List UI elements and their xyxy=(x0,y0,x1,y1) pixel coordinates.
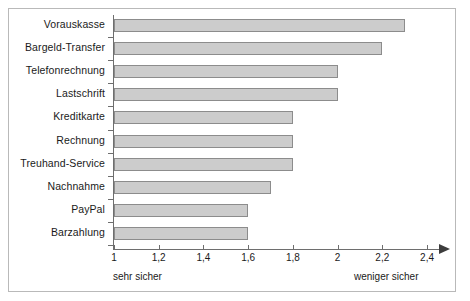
bar-category-label: Nachnahme xyxy=(0,180,105,192)
bar-category-label: Bargeld-Transfer xyxy=(0,41,105,53)
bar xyxy=(114,111,293,124)
x-axis-tick xyxy=(338,245,339,250)
bar-row: Vorauskasse xyxy=(9,15,457,38)
x-axis-tick-label: 2 xyxy=(335,252,341,263)
bar xyxy=(114,42,382,55)
x-axis-tick-label: 2,2 xyxy=(375,252,389,263)
bar-category-label: Barzahlung xyxy=(0,226,105,238)
bar xyxy=(114,88,338,101)
bar xyxy=(114,65,338,78)
bar-category-label: Treuhand-Service xyxy=(0,157,105,169)
x-axis-tick xyxy=(114,245,115,250)
bar xyxy=(114,204,248,217)
y-axis-tick xyxy=(108,153,113,154)
bar xyxy=(114,181,271,194)
x-axis-tick xyxy=(293,245,294,250)
y-axis-tick xyxy=(108,130,113,131)
x-axis-tick xyxy=(382,245,383,250)
bar-row: Lastschrift xyxy=(9,84,457,107)
x-axis-tick xyxy=(203,245,204,250)
x-axis-tick-label: 1,6 xyxy=(241,252,255,263)
y-axis-tick xyxy=(108,37,113,38)
y-axis-tick xyxy=(108,222,113,223)
y-axis-tick xyxy=(108,60,113,61)
x-axis-tick-label: 1,2 xyxy=(152,252,166,263)
bar xyxy=(114,135,293,148)
bar-row: Treuhand-Service xyxy=(9,154,457,177)
x-axis-line xyxy=(113,249,440,250)
axis-annotation-low: sehr sicher xyxy=(113,271,162,282)
y-axis-tick xyxy=(108,245,113,246)
x-axis-tick xyxy=(427,245,428,250)
x-axis-tick-label: 1,4 xyxy=(196,252,210,263)
x-axis-tick xyxy=(159,245,160,250)
x-axis-tick-label: 1,8 xyxy=(286,252,300,263)
bar-category-label: Rechnung xyxy=(0,134,105,146)
y-axis-tick xyxy=(108,83,113,84)
x-axis-tick-label: 1 xyxy=(111,252,117,263)
y-axis-tick xyxy=(108,199,113,200)
y-axis-tick xyxy=(108,106,113,107)
bar xyxy=(114,227,248,240)
chart-frame: VorauskasseBargeld-TransferTelefonrechnu… xyxy=(8,8,456,292)
bar-row: PayPal xyxy=(9,200,457,223)
bar-row: Telefonrechnung xyxy=(9,61,457,84)
bar-row: Kreditkarte xyxy=(9,107,457,130)
bar-category-label: Telefonrechnung xyxy=(0,64,105,76)
x-axis-tick xyxy=(248,245,249,250)
bar-category-label: Vorauskasse xyxy=(0,18,105,30)
bar-row: Bargeld-Transfer xyxy=(9,38,457,61)
bar-row: Barzahlung xyxy=(9,223,457,246)
bar xyxy=(114,158,293,171)
bar-row: Nachnahme xyxy=(9,177,457,200)
bar-row: Rechnung xyxy=(9,131,457,154)
plot-area: VorauskasseBargeld-TransferTelefonrechnu… xyxy=(9,9,457,293)
bar-category-label: PayPal xyxy=(0,203,105,215)
y-axis-tick xyxy=(108,176,113,177)
bar-category-label: Lastschrift xyxy=(0,87,105,99)
x-axis-tick-label: 2,4 xyxy=(420,252,434,263)
bar xyxy=(114,19,405,32)
bar-category-label: Kreditkarte xyxy=(0,110,105,122)
axis-annotation-high: weniger sicher xyxy=(354,271,418,282)
